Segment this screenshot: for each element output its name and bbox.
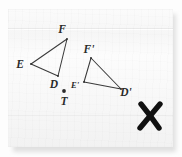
screenshot-canvas: E F D E' F' D' T bbox=[0, 0, 182, 157]
center-of-rotation-t: T bbox=[60, 89, 68, 107]
triangle-def-outline bbox=[31, 39, 67, 76]
triangle-def-prime: E' F' D' bbox=[70, 43, 132, 98]
geometry-figure: E F D E' F' D' T bbox=[0, 0, 182, 157]
triangle-def-prime-outline bbox=[84, 58, 121, 89]
vertex-label-e: E bbox=[15, 58, 24, 70]
point-dot-t bbox=[62, 89, 66, 93]
vertex-dot-f-prime bbox=[90, 57, 92, 59]
vertex-dot-e bbox=[30, 63, 32, 65]
point-label-t: T bbox=[60, 95, 68, 107]
vertex-label-f-prime: F' bbox=[83, 43, 95, 55]
vertex-label-f: F bbox=[57, 23, 66, 35]
vertex-dot-d bbox=[57, 75, 59, 77]
vertex-label-e-prime: E' bbox=[70, 80, 80, 90]
vertex-dot-f bbox=[66, 38, 68, 40]
triangle-def: E F D bbox=[15, 23, 68, 90]
x-mark bbox=[140, 104, 160, 128]
vertex-label-d-prime: D' bbox=[119, 86, 132, 98]
vertex-dot-e-prime bbox=[83, 81, 85, 83]
vertex-label-d: D bbox=[49, 78, 59, 90]
